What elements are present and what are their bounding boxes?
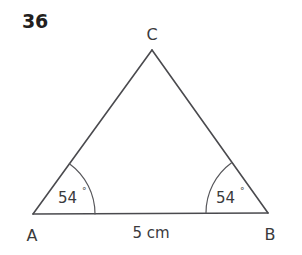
side-ac-left-line	[33, 50, 152, 214]
vertex-label-b: B	[265, 225, 276, 244]
angle-value-a: 54	[58, 189, 77, 207]
vertex-label-c: C	[146, 25, 157, 44]
geometry-figure: 36 A B C 54 ° 54 ° 5 cm	[0, 0, 302, 255]
triangle-diagram: A B C 54 ° 54 ° 5 cm	[0, 0, 302, 255]
angle-value-b: 54	[216, 189, 235, 207]
vertex-label-a: A	[27, 226, 38, 245]
side-bc-right-line	[152, 50, 268, 213]
side-ab-base-line	[33, 213, 268, 214]
degree-symbol-b: °	[240, 186, 245, 196]
side-length-label-ab: 5 cm	[132, 224, 169, 242]
degree-symbol-a: °	[82, 186, 87, 196]
